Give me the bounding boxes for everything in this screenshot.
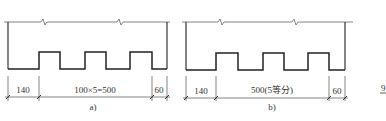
tooth-profile xyxy=(186,53,345,70)
panel-a: 140 100×5=500 60 a) xyxy=(4,19,170,112)
dim-label-middle: 100×5=500 xyxy=(74,85,116,95)
dim-label-right: 60 xyxy=(333,86,343,96)
break-line-top xyxy=(182,19,353,25)
panel-caption: b) xyxy=(268,102,276,112)
panel-b: 140 500(5等分) 60 b) xyxy=(182,19,353,112)
dim-label-right: 60 xyxy=(155,85,165,95)
tooth-profile xyxy=(8,52,167,69)
panel-caption: a) xyxy=(90,102,97,112)
dim-label-middle: 500(5等分) xyxy=(251,84,293,95)
dim-label-left: 140 xyxy=(16,85,30,95)
break-line-top xyxy=(4,19,170,25)
diagram-canvas: 140 100×5=500 60 a) 140 500(5等分) 60 b) 9 xyxy=(0,0,386,121)
dim-label-left: 140 xyxy=(194,86,208,96)
edge-fragment-text: 9 xyxy=(381,83,386,93)
